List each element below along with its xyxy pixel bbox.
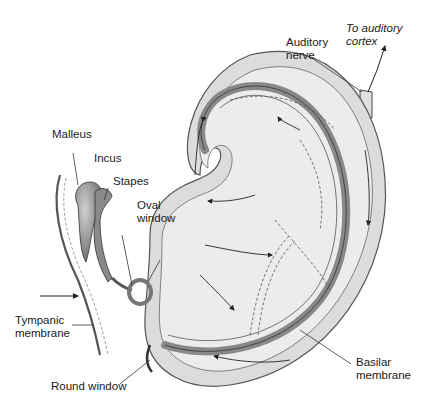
label-tympanic-membrane: Tympanic membrane — [15, 314, 70, 340]
label-round-window: Round window — [51, 380, 126, 393]
label-stapes: Stapes — [113, 175, 149, 188]
label-basilar-membrane: Basilar membrane — [356, 356, 411, 382]
label-oval-window: Oval window — [137, 199, 175, 225]
label-malleus: Malleus — [52, 128, 92, 141]
diagram-drawing — [0, 0, 429, 409]
label-auditory-nerve: Auditory nerve — [286, 36, 328, 62]
cochlea-diagram: To auditory cortex Auditory nerve Malleu… — [0, 0, 429, 409]
label-incus: Incus — [94, 152, 122, 165]
label-to-auditory-cortex: To auditory cortex — [346, 22, 402, 48]
